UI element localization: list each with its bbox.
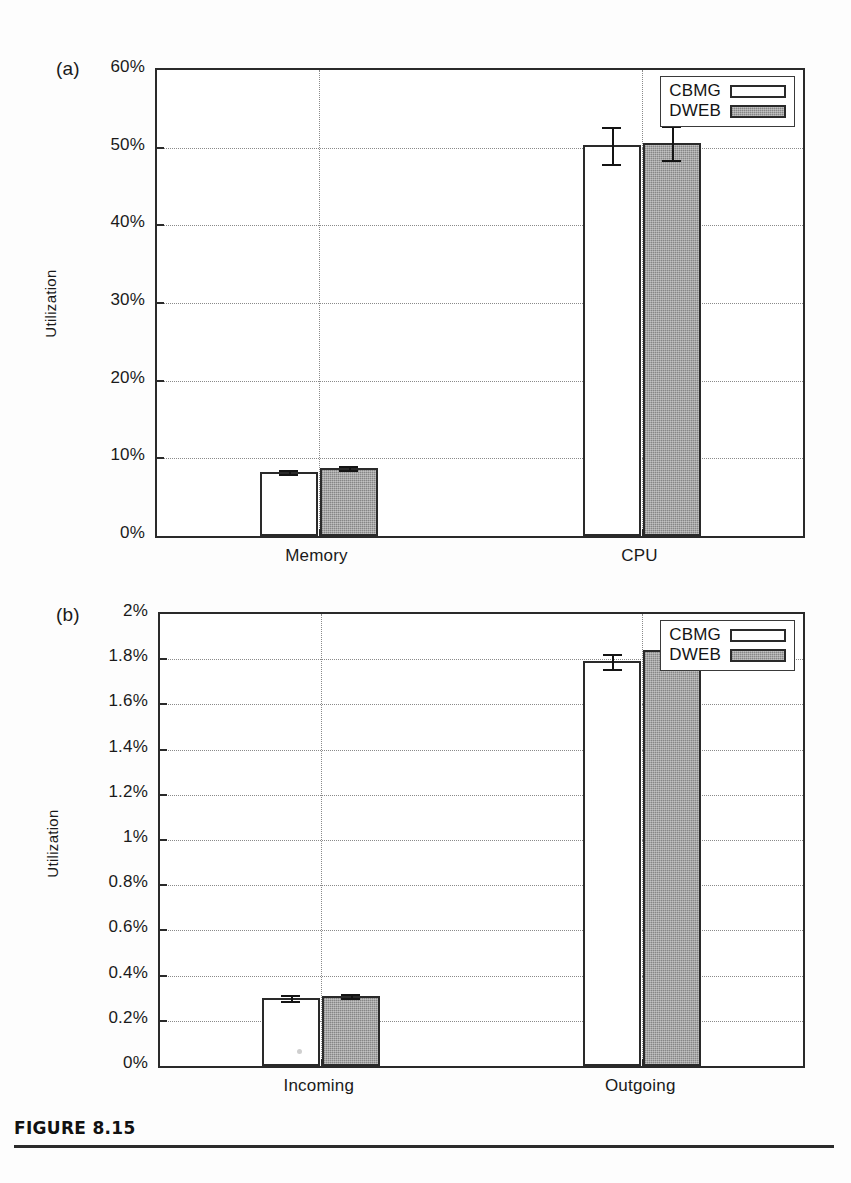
gridline-horizontal	[160, 930, 803, 931]
y-axis-tick-label: 40%	[35, 212, 145, 232]
legend-swatch-dweb	[730, 105, 786, 118]
scan-speck	[297, 1049, 302, 1054]
y-axis-tick	[157, 457, 164, 459]
error-bar-cap	[341, 994, 360, 996]
chart-panel-a: (a) Utilization CBMG DWEB 0%10%20%30%40%…	[0, 0, 851, 580]
error-bar-cap	[279, 470, 298, 472]
y-axis-tick-label: 0%	[35, 523, 145, 543]
x-axis-tick	[642, 1059, 644, 1066]
y-axis-tick	[160, 1020, 167, 1022]
legend-b: CBMG DWEB	[660, 620, 795, 671]
y-axis-tick-label: 1.2%	[38, 782, 148, 802]
legend-row-dweb: DWEB	[669, 645, 786, 665]
x-axis-tick	[642, 529, 644, 536]
gridline-horizontal	[160, 840, 803, 841]
caption-divider	[14, 1145, 834, 1148]
y-axis-tick	[160, 658, 167, 660]
gridline-horizontal	[157, 303, 803, 304]
error-bar-cap	[279, 474, 298, 476]
legend-label-dweb: DWEB	[669, 645, 721, 665]
bar-dweb-outgoing	[643, 650, 701, 1066]
error-bar-cap	[662, 160, 681, 162]
error-bar-cap	[603, 669, 622, 671]
bar-cbmg-cpu	[583, 145, 641, 536]
y-axis-tick	[160, 884, 167, 886]
x-axis-tick-label: Memory	[217, 546, 417, 566]
y-axis-tick	[157, 224, 164, 226]
error-bar-cap	[281, 995, 300, 997]
error-bar	[612, 127, 614, 164]
gridline-horizontal	[160, 795, 803, 796]
y-axis-tick-label: 50%	[35, 135, 145, 155]
gridline-horizontal	[157, 381, 803, 382]
figure-caption-title: FIGURE 8.15	[14, 1118, 834, 1138]
x-axis-tick	[321, 1059, 323, 1066]
y-axis-tick	[157, 302, 164, 304]
bar-cbmg-incoming	[262, 998, 320, 1066]
legend-a: CBMG DWEB	[660, 76, 795, 127]
gridline-horizontal	[160, 750, 803, 751]
y-axis-tick-label: 1.6%	[38, 691, 148, 711]
error-bar-cap	[602, 164, 621, 166]
bar-dweb-memory	[320, 468, 378, 536]
bar-cbmg-outgoing	[583, 661, 641, 1066]
y-axis-tick	[160, 794, 167, 796]
legend-row-cbmg: CBMG	[669, 625, 786, 645]
y-axis-tick-label: 30%	[35, 290, 145, 310]
gridline-horizontal	[157, 225, 803, 226]
y-axis-tick-label: 1.8%	[38, 646, 148, 666]
y-axis-tick-label: 0.2%	[38, 1008, 148, 1028]
y-axis-tick-label: 1.4%	[38, 737, 148, 757]
legend-label-cbmg: CBMG	[669, 81, 721, 101]
y-axis-tick	[160, 975, 167, 977]
figure-page: (a) Utilization CBMG DWEB 0%10%20%30%40%…	[0, 0, 851, 1183]
x-axis-tick	[319, 529, 321, 536]
error-bar-cap	[281, 1001, 300, 1003]
gridline-horizontal	[160, 704, 803, 705]
y-axis-tick-label: 1%	[38, 827, 148, 847]
y-axis-tick-label: 0.6%	[38, 917, 148, 937]
error-bar	[672, 126, 674, 160]
x-axis-tick-label: Outgoing	[540, 1076, 740, 1096]
gridline-horizontal	[157, 148, 803, 149]
bar-dweb-cpu	[643, 143, 701, 536]
legend-label-dweb: DWEB	[669, 101, 721, 121]
legend-label-cbmg: CBMG	[669, 625, 721, 645]
gridline-horizontal	[160, 1021, 803, 1022]
bar-dweb-incoming	[322, 996, 380, 1066]
error-bar-cap	[339, 466, 358, 468]
bar-cbmg-memory	[260, 472, 318, 536]
y-axis-tick-label: 0.8%	[38, 872, 148, 892]
legend-row-cbmg: CBMG	[669, 81, 786, 101]
gridline-horizontal	[160, 976, 803, 977]
error-bar	[612, 654, 614, 670]
plot-inner-b	[160, 614, 803, 1066]
y-axis-tick-label: 0.4%	[38, 963, 148, 983]
figure-caption-block: FIGURE 8.15	[14, 1118, 834, 1148]
chart-panel-b: (b) Utilization CBMG DWEB 0%0.2%0.4%0.6%…	[0, 580, 851, 1110]
error-bar-cap	[603, 654, 622, 656]
gridline-horizontal	[157, 458, 803, 459]
plot-area-b: CBMG DWEB	[158, 612, 805, 1068]
plot-inner-a	[157, 70, 803, 536]
y-axis-tick-label: 20%	[35, 368, 145, 388]
legend-swatch-cbmg	[730, 629, 786, 642]
y-axis-tick-label: 60%	[35, 57, 145, 77]
legend-row-dweb: DWEB	[669, 101, 786, 121]
y-axis-tick-label: 2%	[38, 601, 148, 621]
x-axis-tick-label: Incoming	[219, 1076, 419, 1096]
y-axis-tick-label: 10%	[35, 445, 145, 465]
y-axis-tick	[157, 380, 164, 382]
legend-swatch-dweb	[730, 649, 786, 662]
legend-swatch-cbmg	[730, 85, 786, 98]
y-axis-tick	[160, 749, 167, 751]
error-bar-cap	[341, 998, 360, 1000]
y-axis-tick	[160, 703, 167, 705]
error-bar-cap	[602, 127, 621, 129]
gridline-horizontal	[160, 885, 803, 886]
x-axis-tick-label: CPU	[540, 546, 740, 566]
y-axis-tick	[157, 147, 164, 149]
plot-area-a: CBMG DWEB	[155, 68, 805, 538]
gridline-vertical	[319, 70, 320, 536]
y-axis-tick	[160, 839, 167, 841]
